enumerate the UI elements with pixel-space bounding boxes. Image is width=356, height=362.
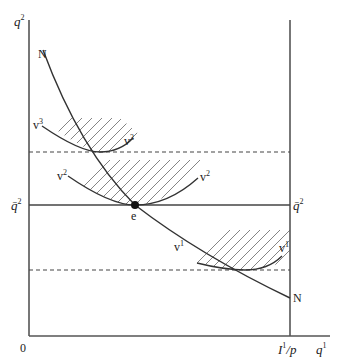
x-axis-label: q1 xyxy=(316,341,327,357)
q-bar-2-label-left: q̄2 xyxy=(11,197,22,213)
v2-label-right: v2 xyxy=(200,169,210,184)
v3-label-right: v3 xyxy=(124,133,134,148)
economics-diagram: q2 q1 0 I1/p q̄2 q̄2 N N v3 v3 v2 v2 v1 … xyxy=(0,0,356,362)
y-axis-label: q2 xyxy=(14,13,25,29)
curve-N-label-top: N xyxy=(38,47,47,61)
indifference-curve-v1 xyxy=(197,256,282,270)
v3-label-left: v3 xyxy=(33,117,43,132)
equilibrium-point xyxy=(131,201,139,209)
q-bar-2-label-right: q̄2 xyxy=(293,197,304,213)
indifference-curve-v3 xyxy=(42,126,133,152)
curve-N-label-bottom: N xyxy=(293,291,302,305)
equilibrium-label: e xyxy=(131,209,136,223)
v2-label-left: v2 xyxy=(57,168,67,183)
v1-label-left: v1 xyxy=(174,239,184,254)
x-intercept-label: I1/p xyxy=(277,341,297,357)
hatched-region-v2 xyxy=(60,160,220,210)
indifference-curve-v2 xyxy=(68,176,198,205)
origin-label: 0 xyxy=(20,341,26,355)
